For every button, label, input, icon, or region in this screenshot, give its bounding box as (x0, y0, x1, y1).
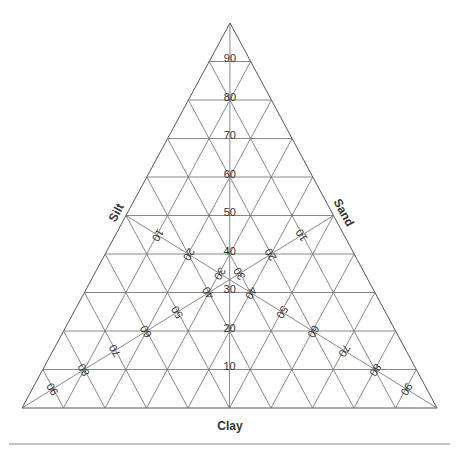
vertical-tick-label: 10 (223, 360, 235, 372)
vertical-tick-label: 90 (224, 52, 236, 64)
sand-line-tick-label: 90 (44, 381, 61, 398)
silt-line-tick-label: 90 (398, 381, 415, 398)
silt-line-tick-label: 10 (150, 227, 167, 244)
silt-line-tick-label: 70 (336, 342, 353, 359)
sand-line-tick-label: 60 (137, 323, 154, 340)
vertical-tick-label: 60 (224, 168, 236, 180)
sand-line-tick-label: 10 (293, 227, 310, 244)
silt-line-tick-label: 20 (181, 246, 198, 263)
sand-line-tick-label: 20 (262, 246, 279, 263)
vertical-tick-label: 20 (223, 322, 235, 334)
silt-line-tick-label: 30 (212, 265, 229, 282)
axis-label-clay: Clay (217, 419, 243, 433)
vertical-tick-label: 30 (224, 283, 236, 295)
sand-line-tick-label: 50 (168, 304, 185, 321)
ternary-diagram: 1020304050607080901020304050607080901020… (0, 0, 458, 449)
vertical-tick-label: 80 (224, 91, 236, 103)
sand-line-tick-label: 70 (106, 342, 123, 359)
silt-line-tick-label: 40 (243, 285, 260, 302)
vertical-tick-label: 40 (224, 245, 236, 257)
silt-line-tick-label: 60 (305, 323, 322, 340)
silt-line-tick-label: 50 (274, 304, 291, 321)
vertical-tick-label: 50 (224, 206, 236, 218)
sand-line-tick-label: 30 (231, 265, 248, 282)
vertical-tick-label: 70 (224, 129, 236, 141)
axis-label-sand: Sand (331, 196, 357, 228)
silt-line-tick-label: 80 (367, 362, 384, 379)
sand-line-tick-label: 80 (75, 362, 92, 379)
sand-line-tick-label: 40 (200, 285, 217, 302)
